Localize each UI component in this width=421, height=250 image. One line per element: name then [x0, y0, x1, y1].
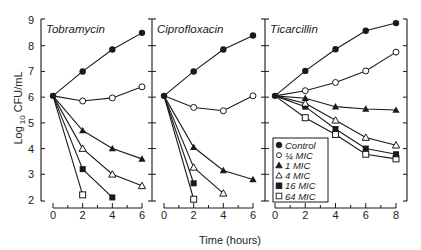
marker-filled-square: [393, 151, 399, 157]
y-tick-label: 9: [28, 14, 34, 26]
marker-filled-circle: [109, 46, 115, 52]
x-tick-label: 2: [191, 209, 197, 221]
panel-title: Ticarcillin: [270, 23, 318, 35]
marker-filled-circle: [272, 93, 278, 99]
marker-open-circle: [333, 79, 339, 85]
series-line: [53, 33, 142, 96]
marker-open-square: [302, 115, 308, 121]
marker-filled-square: [80, 166, 86, 172]
marker-filled-circle: [363, 28, 369, 34]
y-tick-label: 5: [28, 117, 34, 129]
marker-filled-square: [363, 146, 369, 152]
series-line: [275, 52, 396, 96]
marker-filled-circle: [79, 68, 85, 74]
marker-filled-triangle: [109, 145, 116, 151]
marker-open-square: [363, 151, 369, 157]
x-tick-label: 6: [363, 209, 369, 221]
y-tick-label: 8: [28, 40, 34, 52]
marker-open-circle: [363, 68, 369, 74]
x-tick-label: 8: [393, 209, 399, 221]
legend: Control ¼ MIC 1 MIC 4 MIC16 MIC64 MIC: [273, 138, 328, 202]
marker-open-circle: [139, 84, 145, 90]
x-tick-label: 6: [139, 209, 145, 221]
marker-filled-circle: [302, 68, 308, 74]
series-line: [53, 96, 142, 159]
y-tick-label: 6: [28, 91, 34, 103]
x-axis-title: Time (hours): [199, 234, 261, 246]
marker-open-square: [80, 192, 86, 198]
legend-label: 64 MIC: [285, 191, 316, 202]
panel-ciprofloxacin: Ciprofloxacin0246: [157, 23, 257, 221]
marker-open-circle: [191, 104, 197, 110]
marker-filled-circle: [161, 93, 167, 99]
y-axis-title: Log10CFU/mL: [12, 71, 27, 144]
y-tick-label: 2: [28, 194, 34, 206]
time-kill-chart: 23456789 Tobramycin0246Ciprofloxacin0246…: [0, 0, 421, 250]
marker-open-triangle: [190, 164, 197, 170]
y-tick-label: 3: [28, 168, 34, 180]
marker-filled-circle: [393, 20, 399, 26]
marker-open-square: [191, 196, 197, 202]
x-tick-label: 4: [332, 209, 338, 221]
y-axis-tick-labels: 23456789: [28, 14, 34, 206]
series-line: [164, 96, 253, 180]
x-tick-label: 0: [161, 209, 167, 221]
series-line: [53, 87, 142, 101]
panel-title: Ciprofloxacin: [157, 23, 223, 35]
marker-open-circle: [393, 49, 399, 55]
series-line: [164, 96, 253, 111]
marker-filled-circle: [139, 30, 145, 36]
marker-open-triangle: [79, 145, 86, 151]
x-tick-label: 4: [109, 209, 115, 221]
series-line: [164, 96, 194, 199]
x-tick-label: 4: [220, 209, 226, 221]
x-tick-label: 0: [50, 209, 56, 221]
x-tick-label: 2: [80, 209, 86, 221]
marker-filled-square: [191, 180, 197, 186]
marker-filled-circle: [220, 46, 226, 52]
marker-filled-square: [333, 126, 339, 132]
series-line: [53, 96, 83, 195]
marker-open-triangle: [332, 117, 339, 123]
marker-open-circle: [302, 88, 308, 94]
panels: Tobramycin0246Ciprofloxacin0246Ticarcill…: [46, 20, 400, 221]
x-tick-label: 0: [272, 209, 278, 221]
panel-tobramycin: Tobramycin0246: [46, 23, 146, 221]
marker-filled-circle: [50, 93, 56, 99]
marker-open-circle: [250, 93, 256, 99]
panel-title: Tobramycin: [46, 23, 105, 35]
marker-filled-circle: [190, 68, 196, 74]
marker-open-triangle: [362, 134, 369, 140]
x-tick-label: 2: [302, 209, 308, 221]
marker-filled-triangle: [190, 144, 197, 150]
marker-open-square: [333, 131, 339, 137]
x-tick-label: 6: [250, 209, 256, 221]
marker-open-circle: [220, 108, 226, 114]
marker-filled-square: [109, 194, 115, 200]
marker-filled-circle: [332, 46, 338, 52]
marker-open-circle: [80, 98, 86, 104]
marker-open-circle: [109, 95, 115, 101]
series-line: [164, 35, 253, 95]
y-tick-label: 4: [28, 143, 34, 155]
marker-filled-circle: [250, 32, 256, 38]
y-tick-label: 7: [28, 65, 34, 77]
